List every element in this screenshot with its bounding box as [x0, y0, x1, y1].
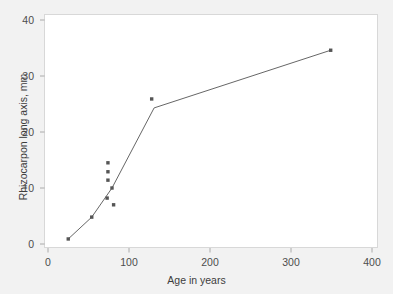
- data-point: [110, 186, 113, 189]
- chart-canvas: [0, 0, 393, 294]
- x-axis-title: Age in years: [0, 274, 393, 286]
- y-tick-label: 0: [8, 238, 34, 250]
- y-axis-title: Rhizocarpon long axis, mm: [17, 62, 29, 212]
- data-point: [105, 196, 108, 199]
- x-tick-label: 200: [190, 256, 230, 268]
- data-point: [329, 49, 332, 52]
- chart-figure: 010203040 0100200300400 Age in years Rhi…: [0, 0, 393, 294]
- data-point: [106, 161, 109, 164]
- data-point: [106, 178, 109, 181]
- data-point: [90, 215, 93, 218]
- data-point: [150, 97, 153, 100]
- data-point-markers: [67, 49, 333, 241]
- data-point: [112, 203, 115, 206]
- data-point: [106, 170, 109, 173]
- x-tick-label: 400: [352, 256, 392, 268]
- y-tick-label: 40: [8, 14, 34, 26]
- data-point: [67, 237, 70, 240]
- tick-marks: [40, 20, 372, 253]
- x-tick-label: 0: [28, 256, 68, 268]
- growth-curve-line: [68, 50, 330, 239]
- x-tick-label: 300: [271, 256, 311, 268]
- x-tick-label: 100: [109, 256, 149, 268]
